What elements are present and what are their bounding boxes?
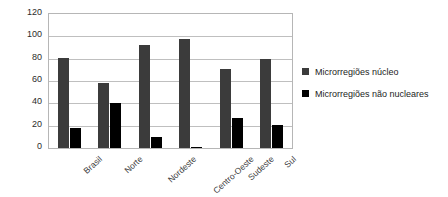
bar-nucleo (260, 59, 271, 148)
x-axis: BrasilNorteNordesteCentro-OesteSudesteSu… (48, 150, 293, 197)
bar-nao-nucleares (272, 125, 283, 148)
legend-item[interactable]: Microrregiões núcleo (302, 64, 446, 79)
bar-nucleo (220, 69, 231, 148)
y-tick-label: 120 (27, 8, 42, 17)
x-tick-label: Sul (282, 154, 298, 170)
y-tick-label: 20 (32, 120, 42, 129)
bar-nucleo (139, 45, 150, 148)
legend-swatch-non-nuclear-icon (302, 90, 309, 97)
bar-nao-nucleares (110, 103, 121, 148)
y-axis: 020406080100120 (0, 0, 46, 162)
legend-label: Microrregiões não nucleares (315, 89, 429, 99)
bar-group (220, 14, 243, 148)
plot-area (48, 13, 293, 149)
bar-group (139, 14, 162, 148)
x-tick-label: Nordeste (166, 154, 198, 185)
bar-nucleo (179, 39, 190, 148)
y-tick-label: 0 (37, 142, 42, 151)
bar-nao-nucleares (151, 137, 162, 148)
bar-nao-nucleares (232, 118, 243, 148)
chart-legend: Microrregiões núcleoMicrorregiões não nu… (302, 64, 446, 108)
bar-chart: 020406080100120 BrasilNorteNordesteCentr… (0, 0, 448, 197)
legend-item[interactable]: Microrregiões não nucleares (302, 86, 446, 101)
bar-nao-nucleares (70, 128, 81, 148)
legend-label: Microrregiões núcleo (315, 67, 399, 77)
bar-nucleo (58, 58, 69, 148)
bar-group (98, 14, 121, 148)
bar-group (260, 14, 283, 148)
bar-nucleo (98, 83, 109, 148)
x-tick-label: Norte (122, 154, 144, 175)
x-tick-label: Brasil (82, 154, 104, 176)
y-tick-label: 100 (27, 30, 42, 39)
bar-nao-nucleares (191, 147, 202, 148)
bar-group (58, 14, 81, 148)
bar-group (179, 14, 202, 148)
y-tick-label: 80 (32, 53, 42, 62)
y-tick-label: 40 (32, 97, 42, 106)
bars-layer (49, 14, 292, 148)
legend-swatch-core-icon (302, 68, 309, 75)
y-tick-label: 60 (32, 75, 42, 84)
